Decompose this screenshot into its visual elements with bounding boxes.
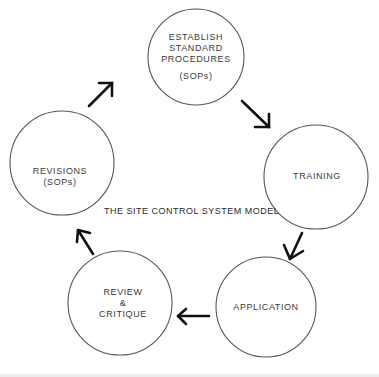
establish-line-1: ESTABLISH — [161, 32, 231, 43]
arrow-review-to-revisions-icon — [77, 230, 93, 254]
diagram-title: THE SITE CONTROL SYSTEM MODEL — [104, 206, 279, 216]
node-review-label: REVIEW & CRITIQUE — [99, 287, 147, 320]
revisions-line-2: (SOPs) — [33, 177, 87, 188]
establish-line-2: STANDARD — [161, 43, 231, 54]
revisions-line-1: REVISIONS — [33, 166, 87, 177]
arrow-establish-to-training-icon — [242, 101, 269, 127]
arrow-revisions-to-establish-icon — [89, 83, 112, 106]
training-line-1: TRAINING — [293, 171, 341, 182]
arrow-training-to-application-icon — [284, 233, 303, 259]
node-establish-label: ESTABLISH STANDARD PROCEDURES (SOPs) — [161, 32, 231, 82]
review-line-3: CRITIQUE — [99, 309, 147, 320]
establish-line-4: (SOPs) — [161, 71, 231, 82]
application-line-1: APPLICATION — [233, 302, 298, 313]
establish-line-3: PROCEDURES — [161, 54, 231, 65]
review-line-2: & — [99, 298, 147, 309]
review-line-1: REVIEW — [99, 287, 147, 298]
node-revisions-label: REVISIONS (SOPs) — [33, 166, 87, 188]
node-application-label: APPLICATION — [233, 302, 298, 313]
node-revisions-circle — [10, 111, 114, 215]
arrow-application-to-review-icon — [178, 309, 209, 324]
node-training-label: TRAINING — [293, 171, 341, 182]
